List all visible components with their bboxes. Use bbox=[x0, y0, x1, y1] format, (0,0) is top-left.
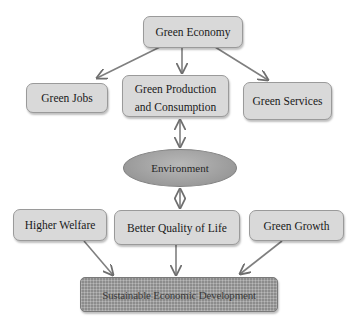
node-label: Environment bbox=[151, 162, 208, 174]
node-environment: Environment bbox=[123, 149, 237, 187]
node-label-line2: and Consumption bbox=[135, 98, 216, 116]
node-label-line1: Green Production bbox=[135, 80, 216, 98]
node-green-services: Green Services bbox=[243, 82, 332, 120]
node-better-quality-of-life: Better Quality of Life bbox=[114, 210, 240, 245]
node-label: Green Growth bbox=[263, 217, 329, 235]
node-label: Better Quality of Life bbox=[127, 219, 227, 237]
node-green-economy: Green Economy bbox=[143, 16, 243, 48]
node-label: Sustainable Economic Development bbox=[102, 286, 256, 304]
node-label: Green Economy bbox=[155, 23, 230, 41]
node-green-jobs: Green Jobs bbox=[26, 83, 108, 113]
node-label: Green Services bbox=[253, 92, 323, 110]
edge-growth-to-sustainable bbox=[240, 241, 282, 274]
node-green-growth: Green Growth bbox=[249, 210, 344, 241]
node-green-production-consumption: Green Production and Consumption bbox=[122, 75, 229, 117]
node-label: Green Jobs bbox=[41, 89, 92, 107]
node-sustainable-economic-development: Sustainable Economic Development bbox=[80, 277, 278, 312]
edge-economy-to-jobs bbox=[97, 47, 160, 78]
node-label: Higher Welfare bbox=[25, 216, 96, 234]
edge-welfare-to-sustainable bbox=[84, 241, 113, 275]
node-higher-welfare: Higher Welfare bbox=[13, 209, 107, 241]
